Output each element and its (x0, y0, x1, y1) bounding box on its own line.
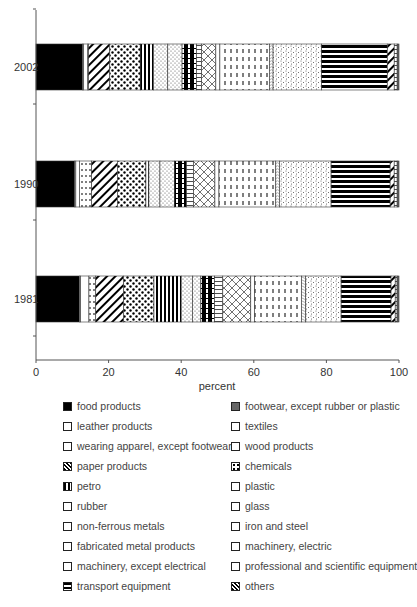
legend-label: wearing apparel, except footwear (77, 440, 232, 452)
legend-label: machinery, except electrical (77, 560, 206, 572)
legend-item: fabricated metal products (63, 540, 195, 552)
bar-segment (182, 44, 196, 90)
bar-segment (394, 44, 397, 90)
bar-segment (140, 44, 153, 90)
legend-swatch-icon (231, 482, 240, 491)
bar-segment (76, 161, 80, 207)
x-axis-ticks: 020406080100 (33, 360, 408, 378)
legend-item: machinery, electric (231, 540, 332, 552)
x-tick-label: 40 (175, 366, 187, 378)
legend-item: leather products (63, 420, 152, 432)
legend-item: transport equipment (63, 580, 170, 592)
legend-swatch-icon (231, 422, 240, 431)
bar-segment (81, 276, 89, 322)
legend-label: textiles (245, 420, 278, 432)
bar-segment (96, 276, 124, 322)
bar-segment (269, 44, 273, 90)
legend-label: rubber (77, 500, 107, 512)
legend-swatch-icon (231, 582, 240, 591)
bars-group (36, 44, 399, 322)
bar-segment (301, 276, 305, 322)
x-tick-label: 0 (33, 366, 39, 378)
stacked-bar-chart: 020406080100 200219901981 percent (0, 0, 410, 400)
bar-segment (160, 161, 174, 207)
bar-segment (251, 276, 255, 322)
legend-swatch-icon (63, 462, 72, 471)
bar-segment (194, 161, 215, 207)
y-axis-label: 1981 (14, 293, 38, 305)
bar-segment (223, 276, 251, 322)
legend-item: petro (63, 480, 101, 492)
legend-swatch-icon (231, 522, 240, 531)
x-tick-label: 60 (248, 366, 260, 378)
legend-swatch-icon (231, 562, 240, 571)
legend-swatch-icon (231, 542, 240, 551)
y-axis-label: 2002 (14, 61, 38, 73)
bar-segment (387, 44, 394, 90)
bar-segment (118, 161, 146, 207)
bar-segment (36, 44, 83, 90)
legend-item: glass (231, 500, 270, 512)
legend-item: textiles (231, 420, 278, 432)
bar-segment (391, 276, 395, 322)
legend-label: non-ferrous metals (77, 520, 165, 532)
bar-segment (397, 44, 399, 90)
y-axis-labels: 200219901981 (14, 61, 38, 305)
bar-segment (193, 276, 201, 322)
legend-label: iron and steel (245, 520, 308, 532)
legend-swatch-icon (63, 502, 72, 511)
legend-swatch-icon (231, 402, 240, 411)
bar-segment (80, 161, 92, 207)
legend-label: food products (77, 400, 141, 412)
bar-segment (331, 161, 390, 207)
legend-label: leather products (77, 420, 152, 432)
bar-segment (216, 44, 220, 90)
legend-item: non-ferrous metals (63, 520, 165, 532)
bar-segment (149, 161, 160, 207)
bar-segment (174, 161, 186, 207)
legend-label: chemicals (245, 460, 292, 472)
legend-swatch-icon (63, 402, 72, 411)
bar-segment (214, 276, 222, 322)
x-tick-label: 100 (390, 366, 408, 378)
bar-segment (168, 44, 182, 90)
y-axis-label: 1990 (14, 178, 38, 190)
bar-segment (124, 276, 154, 322)
legend-swatch-icon (63, 542, 72, 551)
legend-swatch-icon (63, 562, 72, 571)
legend-item: iron and steel (231, 520, 308, 532)
legend-label: plastic (245, 480, 275, 492)
bar-segment (92, 161, 118, 207)
bar-segment (89, 276, 96, 322)
legend-item: chemicals (231, 460, 292, 472)
legend-label: footwear, except rubber or plastic (245, 400, 400, 412)
legend-label: fabricated metal products (77, 540, 195, 552)
bar-segment (390, 161, 394, 207)
legend-label: wood products (245, 440, 313, 452)
legend-swatch-icon (231, 462, 240, 471)
bar-segment (219, 161, 276, 207)
legend-label: others (245, 580, 274, 592)
legend-swatch-icon (63, 482, 72, 491)
bar-segment (181, 276, 192, 322)
bar-segment (306, 276, 342, 322)
legend-swatch-icon (231, 502, 240, 511)
bar-segment (201, 276, 215, 322)
legend-item: wearing apparel, except footwear (63, 440, 232, 452)
legend-label: transport equipment (77, 580, 170, 592)
bar-segment (110, 44, 140, 90)
legend-label: professional and scientific equipment (245, 560, 417, 572)
legend-item: food products (63, 400, 141, 412)
legend-item: paper products (63, 460, 147, 472)
bar-segment (397, 161, 399, 207)
bar-segment (255, 276, 302, 322)
bar-segment (187, 161, 194, 207)
legend-item: rubber (63, 500, 107, 512)
bar-segment (36, 161, 75, 207)
legend-swatch-icon (63, 522, 72, 531)
x-tick-label: 80 (320, 366, 332, 378)
bar-segment (154, 276, 181, 322)
bar-segment (84, 44, 88, 90)
legend-item: wood products (231, 440, 313, 452)
bar-segment (36, 276, 79, 322)
